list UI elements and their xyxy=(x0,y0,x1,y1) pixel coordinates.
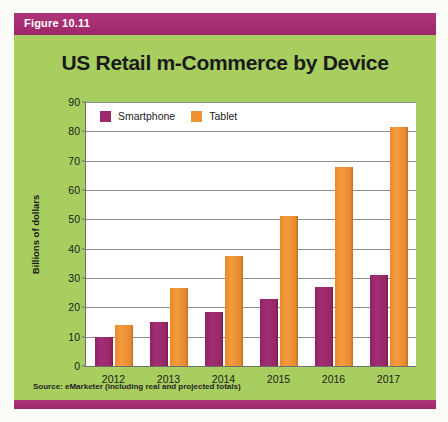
x-tick-label-2016: 2016 xyxy=(322,373,345,385)
y-tick-mark xyxy=(82,131,86,132)
x-tick-label-2017: 2017 xyxy=(377,373,400,385)
legend-label-smartphone: Smartphone xyxy=(118,110,175,122)
source-note: Source: eMarketer (including real and pr… xyxy=(33,382,241,391)
legend-swatch-tablet xyxy=(191,111,202,122)
y-tick-mark xyxy=(82,190,86,191)
legend-swatch-smartphone xyxy=(100,111,111,122)
bar-tablet-2017 xyxy=(390,127,408,366)
bar-smartphone-2014 xyxy=(205,312,223,366)
y-tick-mark xyxy=(82,160,86,161)
plot-inner: 0102030405060708090201220132014201520162… xyxy=(86,102,416,366)
y-axis-title: Billions of dollars xyxy=(30,175,41,295)
figure-caption-label: Figure 10.11 xyxy=(24,17,90,29)
bar-tablet-2013 xyxy=(170,288,188,366)
y-tick-mark xyxy=(82,307,86,308)
y-tick-label: 60 xyxy=(68,184,80,196)
chart-title: US Retail m-Commerce by Device xyxy=(14,51,436,75)
bar-group-2016: 2016 xyxy=(315,102,353,366)
bar-group-2012: 2012 xyxy=(95,102,133,366)
plot-area: 0102030405060708090201220132014201520162… xyxy=(85,102,416,367)
gridline xyxy=(86,249,416,250)
figure-caption-bar: Figure 10.11 xyxy=(14,13,436,35)
y-tick-mark xyxy=(82,102,86,103)
bar-group-2015: 2015 xyxy=(260,102,298,366)
y-tick-label: 40 xyxy=(68,243,80,255)
y-tick-mark xyxy=(82,248,86,249)
bar-tablet-2014 xyxy=(225,256,243,366)
bar-smartphone-2015 xyxy=(260,299,278,366)
figure-panel: Figure 10.11 US Retail m-Commerce by Dev… xyxy=(14,13,436,409)
gridline xyxy=(86,131,416,132)
bar-group-2013: 2013 xyxy=(150,102,188,366)
gridline xyxy=(86,161,416,162)
gridline xyxy=(86,219,416,220)
legend-item-smartphone[interactable]: Smartphone xyxy=(100,110,175,122)
y-tick-label: 90 xyxy=(68,96,80,108)
y-tick-label: 0 xyxy=(74,360,80,372)
y-tick-label: 70 xyxy=(68,155,80,167)
bar-tablet-2012 xyxy=(115,325,133,366)
bar-group-2014: 2014 xyxy=(205,102,243,366)
x-tick-label-2015: 2015 xyxy=(267,373,290,385)
legend-label-tablet: Tablet xyxy=(209,110,237,122)
bar-group-2017: 2017 xyxy=(370,102,408,366)
bar-smartphone-2016 xyxy=(315,287,333,366)
gridline xyxy=(86,278,416,279)
gridline xyxy=(86,102,416,103)
y-tick-label: 50 xyxy=(68,213,80,225)
figure-root: Figure 10.11 US Retail m-Commerce by Dev… xyxy=(0,0,448,422)
y-tick-mark xyxy=(82,278,86,279)
legend-item-tablet[interactable]: Tablet xyxy=(191,110,237,122)
y-tick-label: 80 xyxy=(68,125,80,137)
y-tick-mark xyxy=(82,336,86,337)
gridline xyxy=(86,190,416,191)
chart-legend: SmartphoneTablet xyxy=(100,110,237,122)
y-tick-label: 30 xyxy=(68,272,80,284)
bar-smartphone-2017 xyxy=(370,275,388,366)
bar-tablet-2016 xyxy=(335,167,353,366)
gridline xyxy=(86,337,416,338)
y-tick-mark xyxy=(82,366,86,367)
figure-bottom-bar xyxy=(14,400,436,409)
gridline xyxy=(86,307,416,308)
bar-smartphone-2012 xyxy=(95,337,113,366)
bar-smartphone-2013 xyxy=(150,322,168,366)
bar-tablet-2015 xyxy=(280,216,298,366)
y-tick-mark xyxy=(82,219,86,220)
y-tick-label: 20 xyxy=(68,301,80,313)
y-tick-label: 10 xyxy=(68,331,80,343)
